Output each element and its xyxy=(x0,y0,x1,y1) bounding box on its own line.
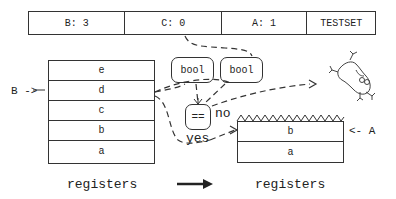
bool-input-right: bool xyxy=(220,57,263,83)
register-a: a xyxy=(49,141,154,161)
right-arrow-icon xyxy=(177,179,213,189)
pointer-b-label: B -> xyxy=(11,85,37,97)
var-b-cell: B: 3 xyxy=(29,12,125,34)
tumbling-frog-icon xyxy=(329,51,375,101)
yes-label: yes xyxy=(186,131,209,146)
register-a: a xyxy=(238,142,343,162)
register-d: d xyxy=(49,81,154,101)
pointer-a-label: <- A xyxy=(349,125,375,137)
d-to-bool-connector xyxy=(155,84,185,92)
yes-to-b-connector xyxy=(210,130,235,140)
no-label: no xyxy=(215,106,231,121)
c-to-bool-connector xyxy=(185,36,252,56)
left-register-stack: e d c b a xyxy=(48,60,155,164)
bool-input-left: bool xyxy=(171,57,214,83)
register-c: c xyxy=(49,101,154,121)
register-e: e xyxy=(49,61,154,81)
variable-bar: B: 3 C: 0 A: 1 TESTSET xyxy=(28,11,376,35)
var-a-cell: A: 1 xyxy=(222,12,308,34)
equality-comparator: == xyxy=(185,104,211,130)
var-c-cell: C: 0 xyxy=(125,12,221,34)
testset-cell: TESTSET xyxy=(307,12,375,34)
left-registers-caption: registers xyxy=(67,177,137,192)
right-registers-caption: registers xyxy=(255,177,325,192)
register-b: b xyxy=(238,122,343,142)
register-b: b xyxy=(49,121,154,141)
right-register-stack: b a xyxy=(237,121,344,163)
no-to-frog-connector xyxy=(212,84,310,106)
